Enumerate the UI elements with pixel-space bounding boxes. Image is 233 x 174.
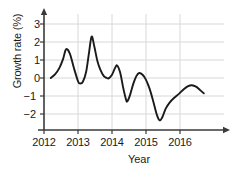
y-tick-label-1: 2	[18, 36, 40, 48]
y-tick-label-2: 1	[18, 54, 40, 66]
y-tick-label-3: 0	[18, 72, 40, 84]
y-axis-arrowhead	[41, 8, 47, 15]
x-tick-label-1: 2013	[61, 136, 95, 148]
y-tick-label-4: −1	[14, 90, 36, 102]
x-axis-label: Year	[44, 153, 233, 165]
growth-rate-chart-figure: Growth rate (%) 2012 2013 2014 2015 2016…	[0, 0, 233, 174]
x-axis-arrowhead	[223, 127, 230, 133]
y-tick-label-5: −2	[14, 108, 36, 120]
x-tick-label-3: 2015	[129, 136, 163, 148]
y-tick-label-0: 3	[18, 18, 40, 30]
x-tick-label-2: 2014	[95, 136, 129, 148]
x-tick-label-0: 2012	[27, 136, 61, 148]
x-tick-label-4: 2016	[163, 136, 197, 148]
